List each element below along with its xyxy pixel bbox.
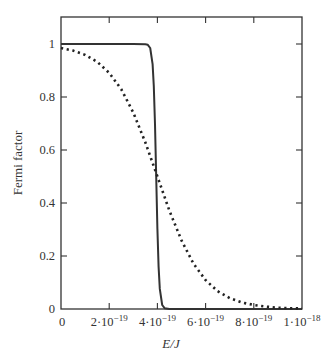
- x-axis-label: E/J: [161, 336, 181, 351]
- x-tick-label: 4·10−19: [139, 313, 176, 329]
- y-tick-label: 1: [49, 37, 55, 51]
- plot-border: [61, 17, 302, 309]
- series-line-low-temperature: [61, 44, 302, 309]
- y-axis-ticks: 00.20.40.60.81: [39, 37, 302, 316]
- series-line-high-temperature: [61, 48, 302, 309]
- series-layer: [61, 44, 302, 309]
- fermi-factor-chart: 02·10−194·10−196·10−198·10−191·10−18 00.…: [0, 0, 334, 362]
- x-tick-label: 8·10−19: [235, 313, 272, 329]
- y-tick-label: 0: [49, 302, 55, 316]
- plot-frame: [61, 17, 302, 309]
- x-tick-label: 2·10−19: [91, 313, 128, 329]
- x-tick-label: 0: [59, 315, 65, 329]
- x-tick-label: 6·10−19: [187, 313, 224, 329]
- y-tick-label: 0.8: [39, 90, 55, 104]
- y-axis-label: Fermi factor: [10, 130, 25, 195]
- y-tick-label: 0.6: [39, 143, 55, 157]
- y-tick-label: 0.2: [39, 249, 55, 263]
- y-tick-label: 0.4: [39, 196, 55, 210]
- x-tick-label: 1·10−18: [284, 313, 321, 329]
